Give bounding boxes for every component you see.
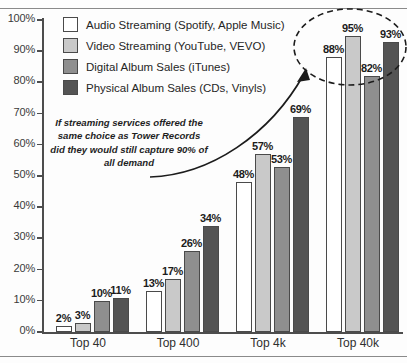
bar-value-label: 93% [376, 28, 406, 40]
legend-label-physical-album-sales: Physical Album Sales (CDs, Vinyls) [86, 82, 266, 94]
legend-swatch-icon-audio-streaming [63, 17, 78, 32]
x-axis-line [42, 332, 403, 334]
legend-label-audio-streaming: Audio Streaming (Spotify, Apple Music) [86, 19, 285, 31]
bar [236, 182, 252, 332]
x-axis-category-label: Top 400 [133, 336, 223, 350]
bar [293, 117, 309, 332]
annotation-streaming-note: If streaming services offered the same c… [50, 116, 208, 170]
y-axis-tick-label: 20% [14, 262, 35, 274]
y-axis-tick-label: 50% [14, 168, 35, 180]
y-axis-tick-label: 30% [14, 230, 35, 242]
bar [255, 154, 271, 332]
bar [383, 42, 399, 332]
bar [75, 323, 91, 332]
y-axis-tick-label: 10% [14, 293, 35, 305]
bar [364, 76, 380, 332]
bar-value-label: 57% [248, 140, 278, 152]
y-axis-tick-label: 70% [14, 106, 35, 118]
legend-item-video-streaming[interactable]: Video Streaming (YouTube, VEVO) [63, 35, 285, 56]
bar [56, 326, 72, 332]
bar [274, 167, 290, 332]
bar-value-label: 11% [106, 284, 136, 296]
y-axis-tick-label: 100% [8, 12, 35, 24]
legend-item-physical-album-sales[interactable]: Physical Album Sales (CDs, Vinyls) [63, 77, 285, 98]
top-rule [0, 8, 407, 9]
legend: Audio Streaming (Spotify, Apple Music) V… [63, 14, 285, 98]
bar-value-label: 95% [338, 22, 368, 34]
legend-label-video-streaming: Video Streaming (YouTube, VEVO) [86, 40, 265, 52]
legend-item-audio-streaming[interactable]: Audio Streaming (Spotify, Apple Music) [63, 14, 285, 35]
bar [146, 291, 162, 332]
x-axis-category-label: Top 40 [43, 336, 133, 350]
y-axis-tick-label: 0% [20, 324, 36, 336]
legend-item-digital-album-sales[interactable]: Digital Album Sales (iTunes) [63, 56, 285, 77]
bar [326, 57, 342, 332]
bar [345, 36, 361, 332]
bar [203, 226, 219, 332]
legend-swatch-icon-video-streaming [63, 38, 78, 53]
x-axis-category-label: Top 40k [313, 336, 403, 350]
legend-label-digital-album-sales: Digital Album Sales (iTunes) [86, 61, 230, 73]
bar-value-label: 34% [196, 212, 226, 224]
legend-swatch-icon-physical-album-sales [63, 80, 78, 95]
bar-value-label: 69% [286, 103, 316, 115]
legend-swatch-icon-digital-album-sales [63, 59, 78, 74]
y-axis-tick-label: 60% [14, 137, 35, 149]
y-axis-tick-label: 90% [14, 43, 35, 55]
bar [94, 301, 110, 332]
bar [113, 298, 129, 332]
bar [165, 279, 181, 332]
y-axis-tick-label: 80% [14, 74, 35, 86]
x-axis-category-label: Top 4k [223, 336, 313, 350]
bar-chart: 0%10%20%30%40%50%60%70%80%90%100% 2%3%10… [0, 0, 407, 363]
bar [184, 251, 200, 332]
y-axis-tick-label: 40% [14, 199, 35, 211]
bottom-rule [0, 356, 407, 357]
